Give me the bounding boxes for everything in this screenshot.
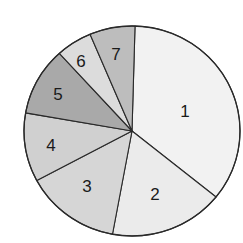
slice-label-3: 3 — [82, 177, 91, 196]
slice-label-1: 1 — [180, 102, 189, 121]
pie-slices — [24, 26, 240, 236]
pie-chart: 1234567 — [0, 0, 243, 243]
slice-label-7: 7 — [111, 45, 120, 64]
slice-label-4: 4 — [46, 136, 55, 155]
slice-label-6: 6 — [76, 52, 85, 71]
slice-label-5: 5 — [53, 85, 62, 104]
slice-label-2: 2 — [150, 185, 159, 204]
